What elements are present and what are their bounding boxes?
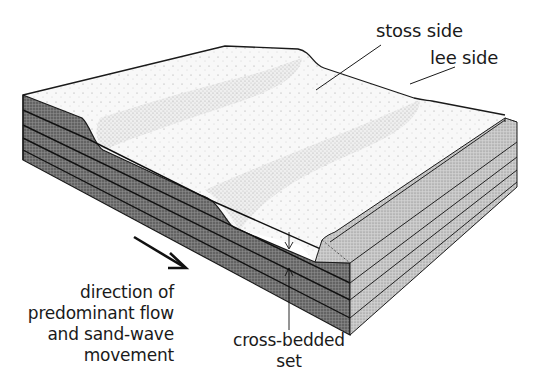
- cross-bedded-set-label: cross-bedded set: [222, 330, 356, 372]
- flow-direction-line-3: and sand-wave: [18, 324, 174, 345]
- lee-side-label: lee side: [430, 47, 498, 68]
- flow-direction-line-1: direction of: [18, 282, 174, 303]
- flow-direction-label: direction of predominant flow and sand-w…: [18, 282, 174, 366]
- lee-side-leader: [410, 67, 455, 84]
- cross-bedded-set-line-1: cross-bedded: [222, 330, 356, 351]
- stoss-side-label: stoss side: [376, 20, 463, 41]
- flow-direction-line-2: predominant flow: [18, 303, 174, 324]
- flow-direction-line-4: movement: [18, 345, 174, 366]
- cross-bedded-set-line-2: set: [222, 351, 356, 372]
